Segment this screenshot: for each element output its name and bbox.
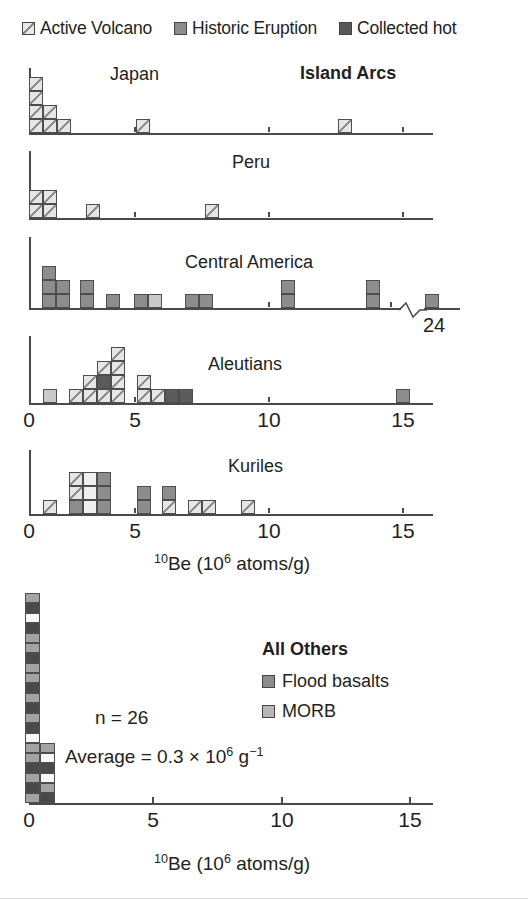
bar-cell	[25, 733, 40, 743]
bar-cell	[43, 190, 57, 204]
panel-peru: Peru	[0, 148, 528, 228]
bar-cell	[111, 375, 125, 389]
bar-cell	[162, 486, 176, 500]
bar-cell	[25, 633, 40, 643]
bar-cell	[86, 204, 100, 218]
bar-cell	[281, 280, 295, 294]
bar-cell	[111, 361, 125, 375]
bar-cell	[97, 375, 111, 389]
bar-cell	[40, 763, 55, 773]
bar-cell	[69, 500, 83, 514]
bar-cell	[205, 204, 219, 218]
bar-cell	[43, 204, 57, 218]
bar-cell	[25, 743, 40, 753]
bar-cell	[137, 500, 151, 514]
bar-cell	[29, 91, 43, 105]
square-gray-swatch-icon	[174, 22, 187, 35]
bar-cell	[57, 119, 71, 133]
bar-cell	[111, 389, 125, 403]
panel-aleutians: Aleutians 0 5 10 15	[0, 332, 528, 432]
bars-central-america	[0, 234, 528, 334]
bar-cell	[338, 119, 352, 133]
bar-cell	[25, 793, 40, 803]
square-hatched-swatch-icon	[22, 22, 35, 35]
bar-cell	[134, 294, 148, 308]
bar-cell	[29, 105, 43, 119]
bar-cell	[29, 204, 43, 218]
bar-cell	[43, 105, 57, 119]
bar-cell	[97, 389, 111, 403]
main-legend: Active Volcano Historic Eruption Collect…	[22, 16, 528, 40]
bar-cell	[42, 294, 56, 308]
bar-cell	[40, 793, 55, 803]
bar-cell	[366, 280, 380, 294]
bar-cell	[25, 723, 40, 733]
bar-cell	[425, 294, 439, 308]
bar-cell	[111, 347, 125, 361]
bar-cell	[25, 603, 40, 613]
bar-cell	[25, 753, 40, 763]
bar-cell	[69, 472, 83, 486]
axis-caption-island-arcs: 10Be (106 atoms/g)	[154, 552, 310, 575]
caption-exponent: 6	[224, 852, 231, 866]
bar-cell	[106, 294, 120, 308]
bar-cell	[83, 375, 97, 389]
bars-kuriles	[0, 440, 528, 542]
bar-cell	[162, 500, 176, 514]
bar-cell	[97, 361, 111, 375]
bar-cell	[97, 500, 111, 514]
bar-cell	[29, 77, 43, 91]
bar-cell	[97, 486, 111, 500]
panel-central-america: Central America 24	[0, 234, 528, 334]
bar-cell	[185, 294, 199, 308]
bar-cell	[25, 643, 40, 653]
bar-cell	[25, 693, 40, 703]
bar-cell	[83, 500, 97, 514]
panel-japan: Japan Island Arcs	[0, 60, 528, 144]
bar-cell	[25, 593, 40, 603]
bar-cell	[42, 280, 56, 294]
panel-all-others: All Others Flood basalts MORB n = 26 Ave…	[0, 582, 528, 822]
bar-cell	[40, 773, 55, 783]
bar-cell	[188, 500, 202, 514]
bars-aleutians	[0, 332, 528, 432]
bar-cell	[69, 486, 83, 500]
bar-cell	[396, 389, 410, 403]
bars-all-others	[0, 582, 528, 822]
caption-isotope-number: 10	[154, 852, 168, 866]
bar-cell	[69, 389, 83, 403]
bar-cell	[148, 294, 162, 308]
bar-cell	[136, 119, 150, 133]
bar-cell	[25, 613, 40, 623]
bar-cell	[97, 472, 111, 486]
bar-cell	[179, 389, 193, 403]
bar-cell	[25, 673, 40, 683]
legend-item-active-volcano: Active Volcano	[22, 18, 152, 39]
bar-cell	[25, 773, 40, 783]
bar-cell	[281, 294, 295, 308]
bars-peru	[0, 148, 528, 228]
caption-isotope-number: 10	[154, 552, 168, 566]
bar-cell	[80, 280, 94, 294]
bar-cell	[202, 500, 216, 514]
bar-cell	[43, 119, 57, 133]
bars-japan	[0, 60, 528, 144]
legend-label-active-volcano: Active Volcano	[40, 18, 152, 39]
legend-label-historic-eruption: Historic Eruption	[192, 18, 317, 39]
bar-cell	[137, 486, 151, 500]
bar-cell	[25, 763, 40, 773]
caption-text-1: Be (10	[168, 853, 224, 874]
bar-cell	[199, 294, 213, 308]
bar-cell	[43, 500, 57, 514]
bar-cell	[366, 294, 380, 308]
bar-cell	[40, 743, 55, 753]
legend-item-historic-eruption: Historic Eruption	[174, 18, 317, 39]
bar-cell	[25, 703, 40, 713]
caption-text-1: Be (10	[168, 553, 224, 574]
bar-cell	[137, 389, 151, 403]
bar-cell	[83, 472, 97, 486]
bar-cell	[165, 389, 179, 403]
bar-cell	[25, 783, 40, 793]
bar-cell	[151, 389, 165, 403]
bar-cell	[42, 266, 56, 280]
